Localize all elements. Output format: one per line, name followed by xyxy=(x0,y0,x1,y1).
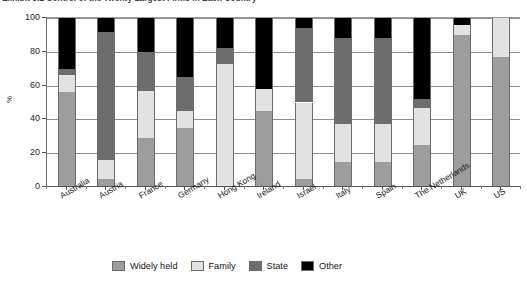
bar-segment xyxy=(137,18,155,52)
bar-column xyxy=(413,18,431,187)
legend-label: Other xyxy=(319,261,342,271)
legend-label: Family xyxy=(209,261,236,271)
x-minor-tick-mark xyxy=(441,186,442,189)
bar-segment xyxy=(176,18,194,77)
bar-segment xyxy=(216,18,234,48)
y-tick-label: 20 xyxy=(0,147,40,157)
bar-column xyxy=(97,18,115,187)
x-minor-tick-mark xyxy=(125,186,126,189)
bar-column xyxy=(374,18,392,187)
bar-segment xyxy=(137,91,155,138)
y-tick-label: 60 xyxy=(0,80,40,90)
bar-column xyxy=(334,18,352,187)
bar-segment xyxy=(374,18,392,38)
legend-entry: Widely held xyxy=(112,261,178,271)
y-tick-label: 40 xyxy=(0,113,40,123)
x-minor-tick-mark xyxy=(481,186,482,189)
bar-segment xyxy=(255,18,273,89)
legend-label: State xyxy=(267,261,288,271)
bar-segment xyxy=(216,64,234,187)
x-minor-tick-mark xyxy=(86,186,87,189)
bar-segment xyxy=(453,18,471,25)
x-category-label: US xyxy=(492,186,507,201)
bar-segment xyxy=(97,18,115,32)
bar-segment xyxy=(334,38,352,124)
x-minor-tick-mark xyxy=(402,186,403,189)
bar-segment xyxy=(58,75,76,92)
bar-segment xyxy=(58,69,76,76)
bar-column xyxy=(58,18,76,187)
bar-column xyxy=(255,18,273,187)
legend-label: Widely held xyxy=(130,261,178,271)
x-minor-tick-mark xyxy=(283,186,284,189)
x-minor-tick-mark xyxy=(204,186,205,189)
legend-entry: Family xyxy=(191,261,236,271)
x-category-label: UK xyxy=(453,186,468,201)
y-axis-label: % xyxy=(5,96,14,103)
gridline xyxy=(47,52,520,53)
bar-segment xyxy=(255,111,273,187)
bar-segment xyxy=(492,57,510,187)
x-minor-tick-mark xyxy=(520,186,521,189)
bar-segment xyxy=(334,162,352,187)
bar-segment xyxy=(295,103,313,179)
bar-segment xyxy=(492,18,510,57)
bar-segment xyxy=(216,48,234,63)
y-tick-label: 80 xyxy=(0,46,40,56)
bar-segment xyxy=(374,38,392,124)
gridline xyxy=(47,86,520,87)
bar-segment xyxy=(137,138,155,187)
x-minor-tick-mark xyxy=(244,186,245,189)
x-minor-tick-mark xyxy=(165,186,166,189)
bar-segment xyxy=(176,128,194,187)
bar-segment xyxy=(413,99,431,107)
bar-segment xyxy=(334,124,352,161)
legend-swatch xyxy=(301,261,314,271)
bar-segment xyxy=(295,18,313,28)
bar-segment xyxy=(58,18,76,69)
bar-segment xyxy=(334,18,352,38)
bar-segment xyxy=(413,18,431,99)
bar-column xyxy=(492,18,510,187)
gridline xyxy=(47,18,520,19)
bar-column xyxy=(137,18,155,187)
page-footer-area xyxy=(0,283,527,288)
chart-figure: Exhibit 3.2 Control of the Twenty Larges… xyxy=(0,0,527,288)
bar-segment xyxy=(97,32,115,160)
bar-column xyxy=(176,18,194,187)
chart-title: Exhibit 3.2 Control of the Twenty Larges… xyxy=(2,0,257,3)
gridline xyxy=(47,153,520,154)
bar-segment xyxy=(176,77,194,111)
bar-segment xyxy=(176,111,194,128)
bar-segment xyxy=(137,52,155,91)
x-minor-tick-mark xyxy=(323,186,324,189)
x-minor-tick-mark xyxy=(362,186,363,189)
y-tick-label: 0 xyxy=(0,181,40,191)
bar-segment xyxy=(255,89,273,111)
x-minor-tick-mark xyxy=(46,186,47,189)
bar-column xyxy=(216,18,234,187)
plot-area xyxy=(46,17,520,186)
y-tick-label: 100 xyxy=(0,12,40,22)
chart-legend: Widely heldFamilyStateOther xyxy=(112,261,342,271)
bar-segment xyxy=(413,108,431,145)
legend-swatch xyxy=(191,261,204,271)
legend-swatch xyxy=(249,261,262,271)
legend-swatch xyxy=(112,261,125,271)
gridline xyxy=(47,119,520,120)
bar-segment xyxy=(453,25,471,35)
bar-segment xyxy=(413,145,431,187)
bar-segment xyxy=(374,124,392,161)
bar-column xyxy=(295,18,313,187)
legend-entry: Other xyxy=(301,261,342,271)
legend-entry: State xyxy=(249,261,288,271)
bar-segment xyxy=(58,92,76,187)
bar-segment xyxy=(97,160,115,179)
bar-segment xyxy=(295,28,313,102)
